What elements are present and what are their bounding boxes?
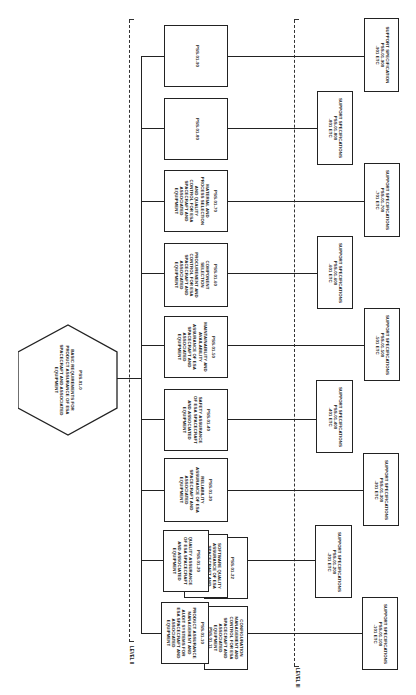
- support-spec-box-700: SUPPORT SPECIFICATIONS PSS-01-700 -701 E…: [364, 163, 400, 237]
- spec-box-pss-01-11: CONFIGURATION MANAGEMENT AND CONTROL FOR…: [204, 606, 248, 670]
- spec-box-pss-01-90: PSS-01-90: [164, 25, 228, 87]
- root-node: PSS-01-0 BASIC REQUIREMENTS FOR PRODUCT …: [18, 324, 118, 436]
- spec-id: PSS-01-60: [213, 252, 218, 298]
- spec-line: AVAILABILITY: [197, 322, 202, 372]
- spec-line: SPACECRAFT AND: [184, 252, 189, 298]
- spec-line: COMPONENT: [205, 252, 210, 298]
- spec-box-pss-01-20: PSS-01-20 QUALITY ASSURANCE OF ESA SPACE…: [163, 530, 209, 592]
- spec-line: RELIABILITY: [200, 467, 205, 513]
- spec-line: ASSURANCE OF ESA: [192, 322, 197, 372]
- support-spec-range: -301 ETC: [373, 460, 378, 520]
- spec-box-pss-01-60: PSS-01-60 COMPONENT SELECTION PROCUREMEN…: [164, 243, 228, 307]
- support-spec-box-200: SUPPORT SPECIFICATIONS PSS-01-200 -201 E…: [315, 525, 352, 598]
- connector: [228, 56, 364, 57]
- spec-line: EQUIPMENT: [165, 607, 170, 658]
- connector: [141, 56, 164, 57]
- spec-line: EQUIPMENT: [176, 322, 181, 372]
- spec-line: AUDIT SYSTEMS FOR: [181, 607, 186, 658]
- spec-line: MAINTAINABILITY AND: [202, 322, 207, 372]
- spec-id: PSS-01-80: [195, 118, 200, 140]
- spec-line: SOFTWARE QUALITY: [216, 543, 221, 589]
- root-line: PRODUCT ASSURANCE OF ESA: [64, 345, 69, 416]
- spec-box-pss-01-30: PSS-01-30 RELIABILITY ASSURANCE OF ESA S…: [164, 458, 228, 522]
- spec-line: ASSURANCE OF ESA: [211, 543, 216, 589]
- connector: [228, 273, 317, 274]
- level-ii-boundary-bottom-tick: [129, 641, 134, 642]
- connector: [141, 128, 164, 129]
- support-spec-code: PSS-01-200: [331, 532, 336, 592]
- support-spec-range: -101 ETC: [372, 604, 377, 664]
- support-spec-title: SUPPORT SPECIFICATIONS: [385, 315, 390, 375]
- support-spec-title: SUPPORT SPECIFICATIONS: [337, 387, 342, 447]
- spec-line: CONFIGURATION: [239, 616, 244, 659]
- spec-line: ASSURANCE OF ESA: [195, 467, 200, 513]
- level-iii-label: LEVEL III: [295, 668, 300, 687]
- connector: [141, 201, 164, 202]
- spec-line: SPACECRAFT AND: [223, 616, 228, 659]
- spec-line: AND ASSOCIATED: [177, 537, 182, 586]
- support-spec-range: -701 ETC: [374, 170, 379, 230]
- support-spec-range: -801 ETC: [327, 98, 332, 158]
- support-spec-title: SUPPORT SPECIFICATIONS: [383, 604, 388, 664]
- support-spec-title: SUPPORT SPECIFICATIONS: [338, 243, 343, 303]
- support-spec-box-400: SUPPORT SPECIFICATIONS PSS-01-400 -401 E…: [316, 380, 353, 453]
- spec-line: OF ESA SPACECRAFT: [192, 396, 197, 444]
- spec-box-pss-01-40: PSS-01-40 SAFETY ASSURANCE OF ESA SPACEC…: [164, 389, 228, 451]
- support-spec-box-500: SUPPORT SPECIFICATIONS PSS-01-500 -501 E…: [364, 308, 400, 381]
- support-spec-title: SUPPORT SPECIFICATIONS: [338, 98, 343, 158]
- support-spec-title: SUPPORT SPECIFICATION: [384, 27, 389, 84]
- connector: [141, 273, 164, 274]
- spec-line: SELECTION: [200, 252, 205, 298]
- level-ii-label: LEVEL II: [129, 646, 134, 664]
- support-spec-code: PSS-01-900: [379, 27, 384, 84]
- spec-line: QUALITY ASSURANCE: [187, 537, 192, 586]
- spec-box-pss-01-80: PSS-01-80: [164, 98, 228, 160]
- spec-line: MATERIAL AND: [205, 177, 210, 226]
- root-id: PSS-01-0: [77, 345, 82, 416]
- root-connector: [117, 378, 141, 379]
- connector: [248, 560, 317, 561]
- spec-id: PSS-01-50: [211, 322, 216, 372]
- support-spec-range: -401 ETC: [327, 387, 332, 447]
- connector: [141, 419, 164, 420]
- support-spec-title: SUPPORT SPECIFICATIONS: [385, 170, 390, 230]
- spec-id: PSS-01-22: [230, 557, 235, 579]
- support-spec-title: SUPPORT SPECIFICATIONS: [384, 460, 389, 520]
- spec-line: PROCESS SELECTION: [200, 177, 205, 226]
- spec-box-pss-01-70: PSS-01-70 MATERIAL AND PROCESS SELECTION…: [164, 170, 228, 232]
- spec-line: CONTROL FOR ESA: [189, 177, 194, 226]
- connector: [228, 490, 364, 491]
- spec-line: SPACECRAFT AND: [184, 177, 189, 226]
- connector: [228, 345, 364, 346]
- spec-box-pss-01-10: PSS-01-10 PRODUCT ASSURANCE MANAGEMENT A…: [161, 602, 209, 664]
- level-ii-boundary: [129, 20, 130, 642]
- level-iii-boundary: [294, 20, 295, 666]
- support-spec-range: -901 ETC: [374, 27, 379, 84]
- connector: [228, 419, 317, 420]
- support-spec-box-300: SUPPORT SPECIFICATIONS PSS-01-300 -301 E…: [363, 453, 399, 526]
- connector: [141, 560, 164, 561]
- support-spec-range: -601 ETC: [327, 243, 332, 303]
- root-line: BASIC REQUIREMENTS FOR: [69, 345, 74, 416]
- spec-id: PSS-01-10: [200, 607, 205, 658]
- spec-id: PSS-01-40: [205, 396, 210, 444]
- spec-line: OF ESA SPACECRAFT: [182, 537, 187, 586]
- connector: [141, 490, 164, 491]
- connector: [141, 345, 164, 346]
- spec-box-pss-01-50: PSS-01-50 MAINTAINABILITY AND AVAILABILI…: [164, 316, 228, 378]
- spec-line: CONTROL FOR ESA: [229, 616, 234, 659]
- spec-id: PSS-01-90: [195, 45, 200, 67]
- spec-id: PSS-01-70: [213, 177, 218, 226]
- spec-line: ESA SPACECRAFT AND: [176, 607, 181, 658]
- support-spec-code: PSS-01-400: [332, 387, 337, 447]
- level-ii-boundary-top-tick: [129, 19, 134, 20]
- level-iii-boundary-top-tick: [294, 19, 299, 20]
- support-spec-box-600: SUPPORT SPECIFICATIONS PSS-01-600 -601 E…: [317, 236, 353, 309]
- spec-line: PROCUREMENT AND: [195, 252, 200, 298]
- spec-line: EQUIPMENT: [174, 177, 179, 226]
- connector: [228, 128, 317, 129]
- spec-line: EQUIPMENT: [179, 467, 184, 513]
- spec-line: SAFETY ASSURANCE: [197, 396, 202, 444]
- support-spec-range: -501 ETC: [374, 315, 379, 375]
- connector: [248, 633, 364, 634]
